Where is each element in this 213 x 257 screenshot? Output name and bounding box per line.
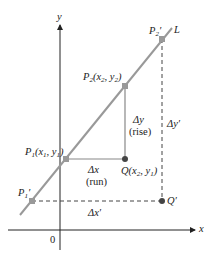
p1-label: P1(x1, y1) bbox=[25, 147, 64, 159]
slope-diagram bbox=[0, 0, 213, 257]
delta-x-label: Δx bbox=[88, 165, 99, 176]
line-label: L bbox=[174, 25, 180, 36]
point-Q bbox=[122, 156, 128, 162]
rise-label: (rise) bbox=[129, 127, 151, 138]
p1-prime-label: P1′ bbox=[18, 188, 30, 200]
point-Q-prime bbox=[159, 198, 165, 204]
q-prime-label: Q′ bbox=[167, 196, 177, 207]
delta-x-prime-label: Δx′ bbox=[88, 208, 101, 219]
delta-y-prime-label: Δy′ bbox=[167, 119, 180, 130]
run-label: (run) bbox=[86, 177, 107, 188]
y-axis-label: y bbox=[57, 12, 62, 23]
origin-label: 0 bbox=[50, 235, 55, 246]
point-P2 bbox=[122, 83, 128, 89]
x-axis-label: x bbox=[199, 224, 204, 235]
p2-label: P2(x2, y2) bbox=[83, 72, 122, 84]
p2-prime-label: P2′ bbox=[149, 26, 161, 38]
delta-y-label: Δy bbox=[133, 115, 144, 126]
q-label: Q(x2, y1) bbox=[121, 166, 157, 178]
